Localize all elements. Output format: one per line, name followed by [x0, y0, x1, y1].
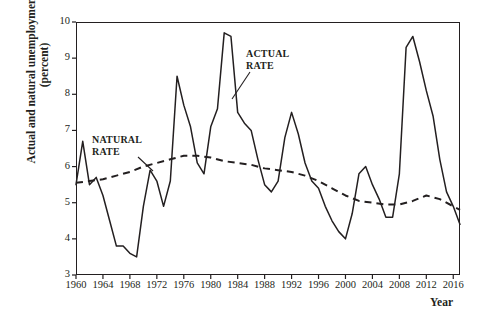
natural-rate-line — [76, 156, 460, 210]
y-tick-label: 6 — [48, 160, 70, 171]
y-tick-label: 10 — [48, 15, 70, 26]
y-tick-label: 5 — [48, 196, 70, 207]
chart-figure: Actual and natural unemployment rates (p… — [0, 0, 499, 323]
y-tick-label: 7 — [48, 123, 70, 134]
actual-rate-line — [76, 33, 460, 257]
x-tick-label: 2016 — [433, 279, 473, 290]
tick-marks — [72, 22, 453, 279]
y-tick-label: 8 — [48, 87, 70, 98]
y-tick-label: 9 — [48, 51, 70, 62]
y-tick-label: 4 — [48, 232, 70, 243]
y-tick-label: 3 — [48, 268, 70, 279]
chart-canvas — [0, 0, 499, 323]
